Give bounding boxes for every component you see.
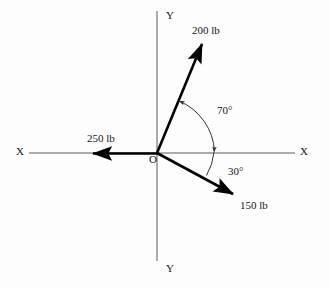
vector-diagram-canvas [0,0,330,287]
angle-arc-group [179,101,215,176]
origin-label: O [149,154,157,165]
force-label-250lb: 250 lb [87,133,115,144]
force-vector-200lb [157,44,202,153]
angle-arc-70 [179,101,215,152]
force-diagram-figure: X X Y Y O 200 lb 250 lb 150 lb 70° 30° [0,0,330,287]
y-axis-label-bottom: Y [166,263,174,274]
force-label-150lb: 150 lb [240,200,268,211]
x-axis-label-left: X [16,146,24,157]
angle-arc-30 [207,152,215,175]
x-axis-label-right: X [300,146,308,157]
angle-label-30deg: 30° [228,166,243,177]
force-vector-group [93,44,233,194]
force-label-200lb: 200 lb [192,25,220,36]
axis-group [29,11,295,261]
force-vector-150lb [157,153,233,194]
angle-label-70deg: 70° [217,105,232,116]
y-axis-label-top: Y [166,10,174,21]
